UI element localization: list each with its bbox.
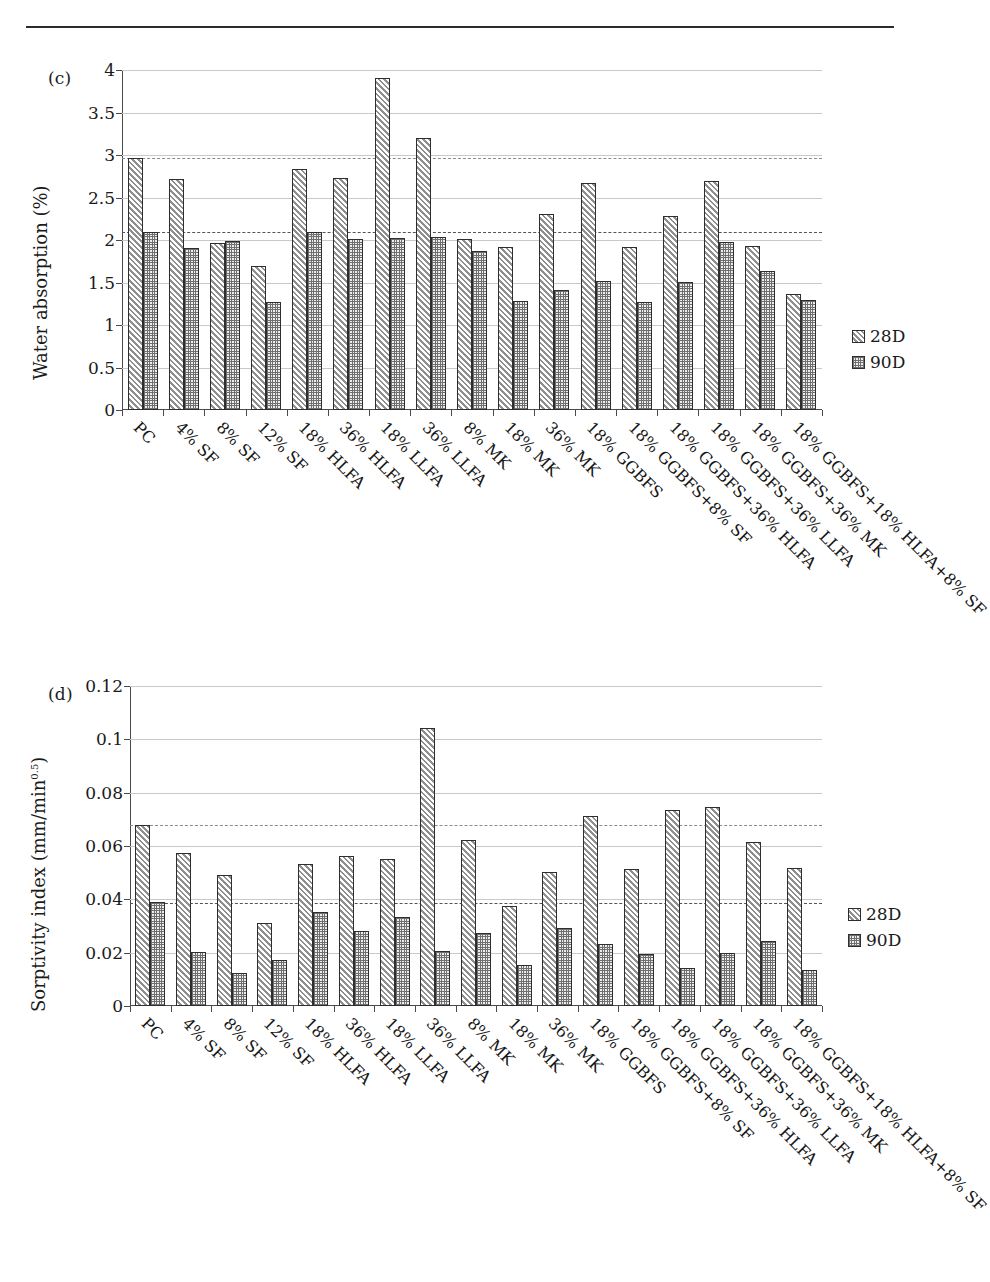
legend-swatch-28d-icon [848, 908, 861, 921]
panel-d-y-axis-label: Sorptivity index (mm/min0.5) [28, 757, 49, 1012]
bar-28d [251, 266, 266, 410]
bar-28d [217, 875, 232, 1006]
bar-28d [583, 816, 598, 1006]
legend-label-28d: 28D [866, 906, 901, 923]
bar-90d [431, 237, 446, 410]
bar-90d [720, 953, 735, 1006]
bar-28d [787, 868, 802, 1006]
legend-swatch-28d-icon [852, 330, 865, 343]
bar-group [252, 686, 293, 1006]
bar-90d [225, 241, 240, 410]
bar-group [287, 70, 328, 410]
bar-90d [143, 232, 158, 411]
bar-28d [416, 138, 431, 410]
bar-90d [150, 902, 165, 1006]
x-axis-label: PC [138, 1014, 168, 1044]
bar-90d [476, 933, 491, 1006]
bar-group [700, 686, 741, 1006]
bar-group [616, 70, 657, 410]
bar-90d [307, 232, 322, 410]
bar-90d [266, 302, 281, 410]
bar-28d [705, 807, 720, 1006]
bar-group [456, 686, 497, 1006]
panel-d-y-axis-label-sup: 0.5 [29, 764, 40, 780]
bar-group [698, 70, 739, 410]
panel-c-plot-area: 00.511.522.533.54 PC4% SF8% SF12% SF18% … [122, 70, 822, 410]
bar-90d [435, 951, 450, 1006]
bar-group [659, 686, 700, 1006]
bar-group [410, 70, 451, 410]
y-tick-label: 3 [104, 145, 115, 165]
x-axis-label: 8% SF [212, 418, 263, 469]
bar-group [657, 70, 698, 410]
bar-group [374, 686, 415, 1006]
y-tick-label: 0 [112, 996, 123, 1016]
legend-item-28d: 28D [852, 328, 905, 345]
bar-90d [272, 960, 287, 1006]
bar-28d [663, 216, 678, 410]
bar-group [130, 686, 171, 1006]
x-axis-label: PC [130, 418, 160, 448]
y-tick-label: 0.02 [85, 942, 123, 962]
y-tick-label: 0.06 [85, 836, 123, 856]
bar-90d [801, 300, 816, 411]
bar-group [740, 70, 781, 410]
x-tick-mark [822, 410, 823, 416]
bar-28d [624, 869, 639, 1006]
panel-d-legend: 28D 90D [848, 906, 901, 958]
bar-group [293, 686, 334, 1006]
panel-d-y-axis-label-text: Sorptivity index (mm/min [28, 780, 49, 1012]
bar-group [334, 686, 375, 1006]
bar-group [451, 70, 492, 410]
y-tick-label: 2.5 [88, 187, 115, 207]
figure-panel-c: (c) Water absorption (%) 00.511.522.533.… [0, 50, 925, 650]
bar-group [369, 70, 410, 410]
bar-28d [176, 853, 191, 1006]
panel-d-x-axis-labels: PC4% SF8% SF12% SF18% HLFA36% HLFA18% LL… [130, 1006, 822, 1236]
legend-item-28d: 28D [848, 906, 901, 923]
bar-90d [232, 973, 247, 1006]
bar-90d [719, 242, 734, 410]
y-tick-label: 0.04 [85, 889, 123, 909]
bar-90d [760, 271, 775, 410]
bar-90d [678, 282, 693, 410]
bar-28d [665, 810, 680, 1006]
bar-28d [210, 243, 225, 410]
bar-group [211, 686, 252, 1006]
legend-item-90d: 90D [848, 932, 901, 949]
bar-28d [745, 246, 760, 410]
bar-group [781, 686, 822, 1006]
x-axis-label: 4% SF [171, 418, 222, 469]
y-tick-label: 1.5 [88, 272, 115, 292]
bar-90d [598, 944, 613, 1006]
bar-28d [539, 214, 554, 410]
bar-90d [596, 281, 611, 410]
bar-group [493, 70, 534, 410]
bar-28d [420, 728, 435, 1006]
legend-label-28d: 28D [870, 328, 905, 345]
figure-panel-d: (d) Sorptivity index (mm/min0.5) 00.020.… [0, 660, 925, 1270]
y-tick-label: 0.12 [85, 676, 123, 696]
bar-28d [457, 239, 472, 410]
bar-90d [354, 931, 369, 1006]
y-tick-label: 0.08 [85, 782, 123, 802]
bar-28d [786, 294, 801, 410]
bar-90d [517, 965, 532, 1006]
bar-90d [637, 302, 652, 410]
bar-90d [639, 954, 654, 1006]
bar-group [575, 70, 616, 410]
bar-group [415, 686, 456, 1006]
bar-28d [128, 158, 143, 410]
bar-group [537, 686, 578, 1006]
bar-90d [802, 970, 817, 1006]
bar-90d [184, 248, 199, 410]
bar-28d [704, 181, 719, 411]
bar-28d [380, 859, 395, 1006]
bar-90d [395, 917, 410, 1006]
bar-28d [542, 872, 557, 1006]
y-tick-label: 3.5 [88, 102, 115, 122]
bar-90d [472, 251, 487, 410]
y-tick-label: 0.1 [96, 729, 123, 749]
bar-group [204, 70, 245, 410]
bar-28d [461, 840, 476, 1006]
